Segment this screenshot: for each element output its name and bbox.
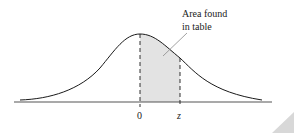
- annotation-line-1: Area found: [182, 8, 227, 19]
- page-curl-decoration: [272, 112, 294, 133]
- axis-label-z: z: [176, 110, 181, 121]
- axis-label-zero: 0: [137, 110, 142, 121]
- leader-line: [163, 33, 187, 56]
- shaded-area: [140, 34, 180, 102]
- normal-curve-diagram: Area found in table 0 z: [0, 0, 294, 133]
- diagram-canvas: Area found in table 0 z: [0, 0, 294, 133]
- annotation-line-2: in table: [182, 21, 212, 32]
